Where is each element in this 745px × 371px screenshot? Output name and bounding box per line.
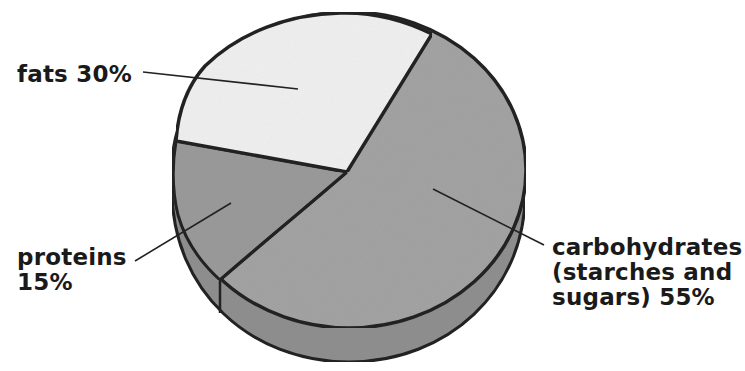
- label-proteins: proteins 15%: [17, 245, 127, 295]
- label-carbohydrates: carbohydrates (starches and sugars) 55%: [552, 235, 742, 310]
- pie-graphic: [0, 0, 745, 371]
- pie-chart: fats 30% proteins 15% carbohydrates (sta…: [0, 0, 745, 371]
- label-fats: fats 30%: [17, 62, 132, 87]
